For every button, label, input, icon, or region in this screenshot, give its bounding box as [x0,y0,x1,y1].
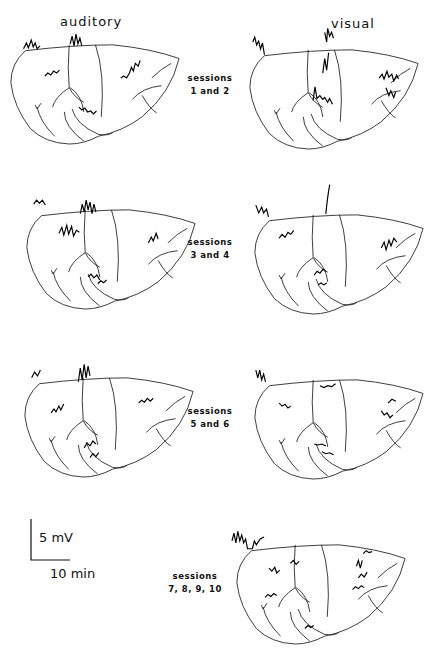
session-label-1: sessions 1 and 2 [170,72,250,98]
column-header-auditory: auditory [60,14,122,29]
column-header-visual: visual [331,16,375,31]
brain-visual-sessions-7-10 [232,535,407,650]
session-label-4-line1: sessions [155,570,235,583]
session-label-4: sessions 7, 8, 9, 10 [155,570,235,596]
scale-bar-voltage-label: 5 mV [39,530,73,545]
session-label-4-line2: 7, 8, 9, 10 [155,583,235,596]
brain-auditory-sessions-5-6 [20,368,195,483]
brain-visual-sessions-5-6 [250,370,425,485]
trace [24,40,41,49]
session-label-1-line2: 1 and 2 [170,85,250,98]
brain-auditory-sessions-1-2 [6,35,181,150]
session-label-1-line1: sessions [170,72,250,85]
brain-visual-sessions-1-2 [245,40,420,155]
brain-auditory-sessions-3-4 [22,200,197,315]
scale-bar-time-label: 10 min [50,566,95,581]
brain-visual-sessions-3-4 [250,205,425,320]
